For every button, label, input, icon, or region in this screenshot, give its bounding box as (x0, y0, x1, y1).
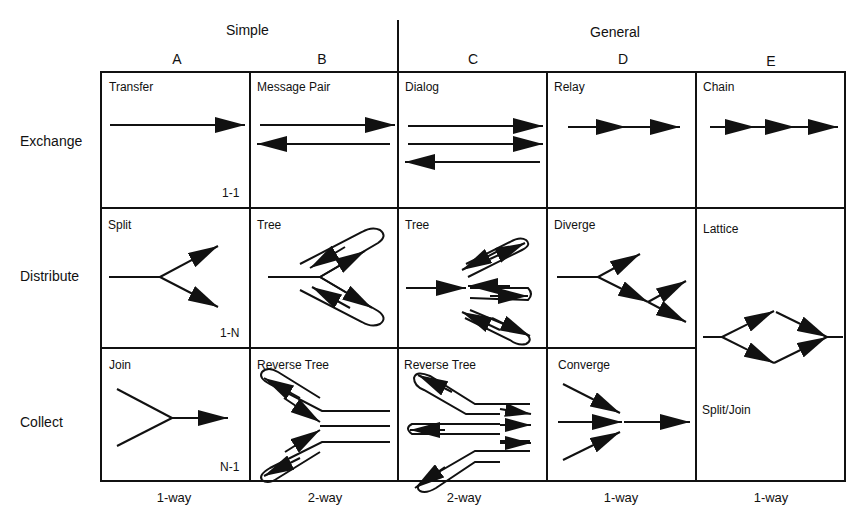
split-arrows-icon (109, 246, 218, 307)
row-label-distribute: Distribute (20, 268, 79, 284)
cell-title-converge: Converge (558, 358, 610, 372)
diagram-canvas (0, 0, 864, 522)
cell-title-message-pair: Message Pair (257, 80, 330, 94)
cell-title-lattice: Lattice (703, 222, 738, 236)
column-label-a: A (157, 51, 197, 67)
row-label-exchange: Exchange (20, 133, 82, 149)
column-label-d: D (603, 51, 643, 67)
reverse-tree-two-way-icon (261, 369, 390, 482)
row-label-collect: Collect (20, 414, 63, 430)
cell-title-relay: Relay (554, 80, 585, 94)
cell-title-diverge: Diverge (554, 218, 595, 232)
cell-note-one-to-many: 1-N (220, 326, 239, 340)
message-pair-arrows-icon (257, 125, 395, 144)
column-label-c: C (453, 51, 493, 67)
converge-arrows-icon (558, 384, 690, 460)
footer-label-c: 2-way (424, 490, 504, 505)
tree-general-icon (406, 238, 531, 344)
footer-label-e: 1-way (731, 490, 811, 505)
cell-title-tree-general: Tree (405, 218, 429, 232)
group-label-simple: Simple (226, 22, 269, 38)
diverge-arrows-icon (557, 254, 686, 322)
cell-title-reverse-tree-general: Reverse Tree (404, 358, 476, 372)
cell-subtitle-split-join: Split/Join (702, 403, 751, 417)
tree-two-way-icon (268, 228, 384, 325)
cell-note-one-to-one: 1-1 (222, 186, 239, 200)
group-label-general: General (590, 24, 640, 40)
cell-title-split: Split (108, 218, 131, 232)
cell-title-reverse-tree-simple: Reverse Tree (257, 358, 329, 372)
cell-title-tree-simple: Tree (257, 218, 281, 232)
cell-title-transfer: Transfer (109, 80, 153, 94)
reverse-tree-general-icon (408, 373, 531, 492)
column-label-b: B (302, 51, 342, 67)
footer-label-a: 1-way (134, 490, 214, 505)
dialog-arrows-icon (405, 126, 543, 162)
cell-title-join: Join (109, 358, 131, 372)
footer-label-d: 1-way (581, 490, 661, 505)
footer-label-b: 2-way (285, 490, 365, 505)
cell-note-many-to-one: N-1 (220, 460, 239, 474)
column-label-e: E (751, 53, 791, 69)
cell-title-chain: Chain (703, 80, 734, 94)
join-arrows-icon (117, 389, 228, 446)
lattice-arrows-icon (703, 311, 843, 363)
cell-title-dialog: Dialog (405, 80, 439, 94)
